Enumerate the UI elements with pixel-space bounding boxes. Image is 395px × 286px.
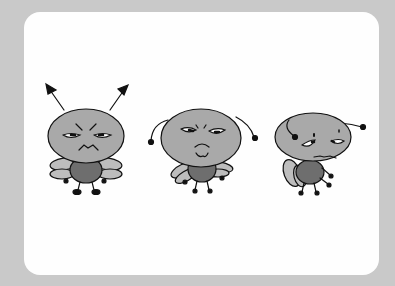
- worried-fly: [275, 113, 366, 195]
- angry-fly: [46, 84, 128, 195]
- sad-fly: [149, 109, 258, 193]
- flies-illustration: [0, 0, 395, 286]
